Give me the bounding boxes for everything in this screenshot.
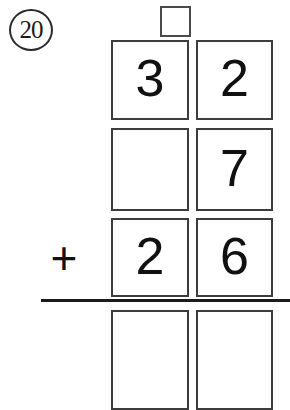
digit-row3-ones: 6	[220, 230, 249, 282]
cell-answer-tens[interactable]	[111, 310, 189, 410]
digit-row2-ones: 7	[220, 142, 249, 194]
cell-row1-tens[interactable]: 3	[111, 40, 189, 120]
problem-number-label: 20	[20, 17, 43, 42]
digit-row1-tens: 3	[136, 52, 165, 104]
digit-row1-ones: 2	[220, 52, 249, 104]
cell-answer-ones[interactable]	[196, 310, 273, 410]
problem-number-badge: 20	[9, 9, 53, 51]
cell-row3-tens[interactable]: 2	[111, 218, 189, 297]
plus-operator-icon: +	[45, 233, 83, 283]
cell-row2-ones[interactable]: 7	[196, 128, 273, 211]
sum-rule-divider	[41, 299, 290, 302]
digit-row3-tens: 2	[136, 230, 165, 282]
cell-row2-tens[interactable]	[111, 128, 189, 211]
cell-row3-ones[interactable]: 6	[196, 218, 273, 297]
carry-box-input[interactable]	[160, 6, 191, 37]
cell-row1-ones[interactable]: 2	[196, 40, 273, 120]
